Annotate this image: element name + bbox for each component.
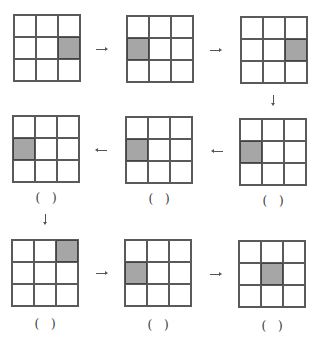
grid-9 xyxy=(238,240,306,308)
shaded-cell xyxy=(240,141,262,163)
grid-3 xyxy=(240,16,308,84)
arrow-down-icon xyxy=(273,95,274,104)
grid-7 xyxy=(11,239,79,307)
answer-blank[interactable]: ( ) xyxy=(26,191,66,205)
grid-6 xyxy=(239,118,307,186)
grid-1 xyxy=(13,14,81,82)
answer-blank[interactable]: ( ) xyxy=(138,318,178,332)
grid-8 xyxy=(124,239,192,307)
grid-5 xyxy=(125,116,193,184)
shaded-cell xyxy=(285,39,307,61)
shaded-cell xyxy=(56,240,78,262)
arrow-down-icon xyxy=(45,214,46,223)
arrow-right-icon xyxy=(96,273,106,274)
arrow-right-icon xyxy=(96,49,106,50)
grid-4 xyxy=(12,115,80,183)
shaded-cell xyxy=(127,38,149,60)
shaded-cell xyxy=(58,37,80,59)
shaded-cell xyxy=(261,263,283,285)
answer-blank[interactable]: ( ) xyxy=(139,192,179,206)
shaded-cell xyxy=(13,138,35,160)
shaded-cell xyxy=(125,262,147,284)
answer-blank[interactable]: ( ) xyxy=(25,317,65,331)
answer-blank[interactable]: ( ) xyxy=(253,194,293,208)
answer-blank[interactable]: ( ) xyxy=(252,319,292,333)
grid-2 xyxy=(126,15,194,83)
arrow-right-icon xyxy=(210,274,220,275)
arrow-right-icon xyxy=(210,50,220,51)
arrow-left-icon xyxy=(97,150,107,151)
shaded-cell xyxy=(126,139,148,161)
arrow-left-icon xyxy=(213,151,223,152)
